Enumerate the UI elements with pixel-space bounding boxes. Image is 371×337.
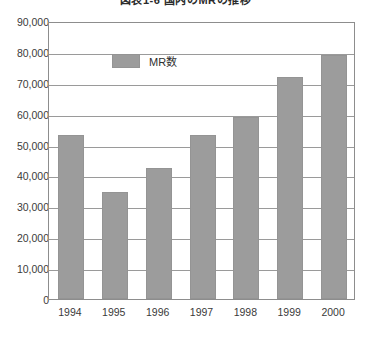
bar-chart-figure: 図表1-6 国内のMRの推移 010,00020,00030,00040,000… (0, 0, 371, 337)
bar-1994 (58, 135, 84, 299)
bar-1995 (102, 192, 128, 299)
bar-1999 (277, 77, 303, 299)
y-tick-label: 60,000 (0, 109, 49, 121)
x-tick-label-1997: 1997 (177, 306, 227, 318)
y-tick-label: 50,000 (0, 140, 49, 152)
y-tick-label: 10,000 (0, 263, 49, 275)
bar-1997 (190, 135, 216, 299)
y-tick-label: 80,000 (0, 47, 49, 59)
gridline (49, 54, 354, 55)
y-tick-label: 70,000 (0, 78, 49, 90)
bar-1998 (233, 117, 259, 299)
gridline (49, 85, 354, 86)
legend-swatch-mr (112, 54, 140, 68)
plot-area (48, 22, 355, 300)
x-tick-label-1998: 1998 (220, 306, 270, 318)
x-tick-label-2000: 2000 (308, 306, 358, 318)
y-tick-label: 90,000 (0, 16, 49, 28)
y-tick-label: 30,000 (0, 201, 49, 213)
gridline (49, 116, 354, 117)
y-tick-label: 40,000 (0, 170, 49, 182)
y-tick-label: 20,000 (0, 232, 49, 244)
x-tick-label-1994: 1994 (45, 306, 95, 318)
bar-2000 (321, 55, 347, 299)
bar-1996 (146, 168, 172, 299)
y-tick-label: 0 (0, 294, 49, 306)
x-tick-label-1996: 1996 (133, 306, 183, 318)
x-tick-label-1999: 1999 (264, 306, 314, 318)
chart-title: 図表1-6 国内のMRの推移 (0, 0, 371, 7)
chart-legend: MR数 (112, 53, 177, 69)
x-tick-label-1995: 1995 (89, 306, 139, 318)
legend-label-mr: MR数 (149, 53, 177, 69)
